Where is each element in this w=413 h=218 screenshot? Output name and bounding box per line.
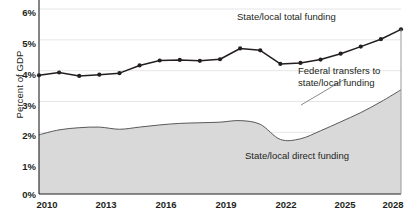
x-tick-label: 2016: [155, 199, 176, 210]
data-point-marker: [318, 57, 322, 61]
chart-svg: [39, 9, 401, 194]
data-point-marker: [359, 45, 363, 49]
annotation-federal-line2: state/local funding: [298, 77, 380, 89]
data-point-marker: [77, 74, 81, 78]
data-point-marker: [178, 58, 182, 62]
x-tick-label: 2028: [382, 199, 403, 210]
data-point-marker: [57, 70, 61, 74]
area-state-local-direct: [39, 90, 401, 194]
x-tick-label: 2022: [275, 199, 296, 210]
y-tick-label: 1%: [8, 162, 36, 172]
plot-area: [39, 9, 401, 194]
data-point-marker: [158, 58, 162, 62]
data-point-marker: [278, 62, 282, 66]
y-tick-label: 2%: [8, 131, 36, 141]
y-tick-label: 3%: [8, 101, 36, 111]
y-tick-label: 4%: [8, 70, 36, 80]
y-tick-label: 0%: [8, 190, 36, 200]
data-point-marker: [339, 52, 343, 56]
y-tick-label: 6%: [8, 8, 36, 18]
data-point-marker: [218, 57, 222, 61]
annotation-federal-line1: Federal transfers to: [298, 65, 380, 77]
data-point-marker: [258, 48, 262, 52]
x-tick-label: 2013: [95, 199, 116, 210]
data-point-marker: [198, 59, 202, 63]
data-point-marker: [97, 73, 101, 77]
x-tick-label: 2010: [36, 199, 57, 210]
y-axis-tick-labels: 6% 5% 4% 3% 2% 1% 0%: [0, 0, 36, 218]
x-tick-label: 2019: [215, 199, 236, 210]
annotation-direct-funding: State/local direct funding: [245, 150, 349, 162]
annotation-federal-transfers: Federal transfers to state/local funding: [298, 65, 380, 88]
y-tick-label: 5%: [8, 39, 36, 49]
x-tick-label: 2025: [334, 199, 355, 210]
chart-container: Percent of GDP 6% 5% 4% 3% 2% 1% 0% 2010…: [0, 0, 413, 218]
data-point-marker: [238, 46, 242, 50]
data-point-marker: [117, 71, 121, 75]
data-point-marker: [137, 63, 141, 67]
data-point-marker: [379, 37, 383, 41]
annotation-total-funding: State/local total funding: [237, 11, 336, 23]
